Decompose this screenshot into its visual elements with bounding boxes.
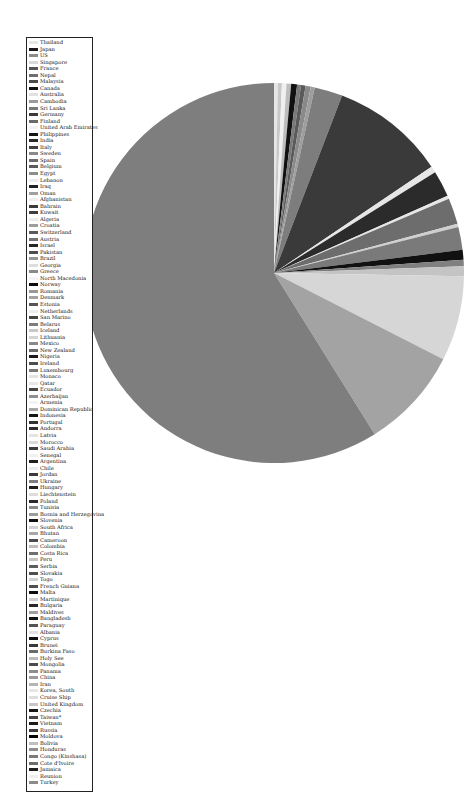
legend-swatch [29, 80, 38, 83]
legend-swatch [29, 434, 38, 437]
legend-swatch [29, 270, 38, 273]
legend-swatch [29, 355, 38, 358]
legend-swatch [29, 604, 38, 607]
legend-swatch [29, 493, 38, 496]
legend-swatch [29, 264, 38, 267]
legend-swatch [29, 382, 38, 385]
legend-swatch [29, 631, 38, 634]
legend-swatch [29, 709, 38, 712]
legend-swatch [29, 775, 38, 778]
legend-swatch [29, 572, 38, 575]
legend-item: Turkey [29, 779, 58, 786]
legend-swatch [29, 296, 38, 299]
legend-swatch [29, 290, 38, 293]
legend-swatch [29, 244, 38, 247]
legend-swatch [29, 159, 38, 162]
legend-swatch [29, 211, 38, 214]
legend-swatch [29, 395, 38, 398]
legend-swatch [29, 54, 38, 57]
legend-swatch [29, 676, 38, 679]
legend-swatch [29, 388, 38, 391]
legend-swatch [29, 192, 38, 195]
legend-swatch [29, 454, 38, 457]
legend-swatch [29, 179, 38, 182]
legend-swatch [29, 742, 38, 745]
legend-swatch [29, 447, 38, 450]
legend-swatch [29, 558, 38, 561]
legend-swatch [29, 486, 38, 489]
legend-label: Turkey [40, 779, 58, 786]
legend-swatch [29, 748, 38, 751]
legend-swatch [29, 74, 38, 77]
legend-swatch [29, 205, 38, 208]
legend-swatch [29, 329, 38, 332]
legend-swatch [29, 729, 38, 732]
legend-swatch [29, 526, 38, 529]
legend-swatch [29, 644, 38, 647]
legend-swatch [29, 362, 38, 365]
legend-swatch [29, 591, 38, 594]
legend-swatch [29, 473, 38, 476]
legend-swatch [29, 61, 38, 64]
legend-swatch [29, 113, 38, 116]
legend-swatch [29, 768, 38, 771]
legend-swatch [29, 408, 38, 411]
legend-swatch [29, 427, 38, 430]
legend-swatch [29, 316, 38, 319]
legend-swatch [29, 617, 38, 620]
legend-swatch [29, 126, 38, 129]
legend-swatch [29, 349, 38, 352]
legend-swatch [29, 375, 38, 378]
legend-swatch [29, 185, 38, 188]
legend-swatch [29, 441, 38, 444]
legend-swatch [29, 231, 38, 234]
legend-swatch [29, 310, 38, 313]
legend-swatch [29, 650, 38, 653]
legend-swatch [29, 585, 38, 588]
legend-swatch [29, 257, 38, 260]
legend-swatch [29, 48, 38, 51]
legend-swatch [29, 500, 38, 503]
legend-swatch [29, 414, 38, 417]
legend-swatch [29, 146, 38, 149]
legend-swatch [29, 755, 38, 758]
legend-swatch [29, 218, 38, 221]
legend-swatch [29, 41, 38, 44]
legend-swatch [29, 172, 38, 175]
legend-swatch [29, 87, 38, 90]
legend-swatch [29, 513, 38, 516]
legend-swatch [29, 781, 38, 784]
legend-swatch [29, 624, 38, 627]
legend-swatch [29, 67, 38, 70]
legend-swatch [29, 467, 38, 470]
legend-swatch [29, 578, 38, 581]
legend-swatch [29, 100, 38, 103]
legend-swatch [29, 238, 38, 241]
legend-swatch [29, 120, 38, 123]
legend-swatch [29, 611, 38, 614]
legend-swatch [29, 283, 38, 286]
legend-swatch [29, 722, 38, 725]
legend: ThailandJapanUSSingaporeFranceNepalMalay… [26, 37, 93, 792]
legend-swatch [29, 696, 38, 699]
legend-swatch [29, 401, 38, 404]
legend-swatch [29, 670, 38, 673]
legend-swatch [29, 532, 38, 535]
legend-swatch [29, 139, 38, 142]
legend-swatch [29, 251, 38, 254]
legend-swatch [29, 277, 38, 280]
legend-swatch [29, 539, 38, 542]
legend-swatch [29, 689, 38, 692]
legend-swatch [29, 552, 38, 555]
legend-swatch [29, 637, 38, 640]
legend-swatch [29, 93, 38, 96]
legend-swatch [29, 480, 38, 483]
legend-swatch [29, 683, 38, 686]
legend-swatch [29, 663, 38, 666]
legend-swatch [29, 369, 38, 372]
legend-swatch [29, 460, 38, 463]
legend-swatch [29, 421, 38, 424]
legend-swatch [29, 506, 38, 509]
legend-swatch [29, 735, 38, 738]
legend-swatch [29, 762, 38, 765]
